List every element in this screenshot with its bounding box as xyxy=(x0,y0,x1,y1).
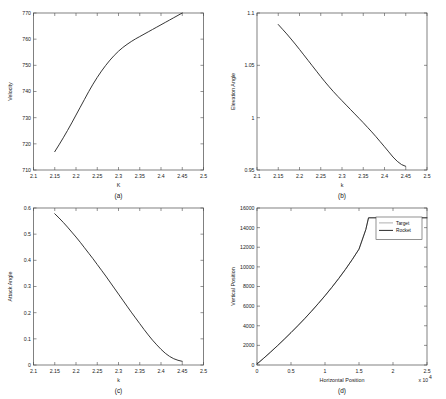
panel-a: 2.12.152.22.252.32.352.42.452.5710720730… xyxy=(7,10,208,200)
x-axis-label: k xyxy=(341,182,344,188)
y-tick-label: 0.6 xyxy=(24,205,31,211)
x-tick-label: 1 xyxy=(324,368,327,374)
plot-frame xyxy=(34,208,204,365)
x-tick-label: 2.3 xyxy=(115,368,122,374)
x-tick-label: 0.5 xyxy=(287,368,294,374)
x-multiplier-base: x 10 xyxy=(419,377,429,383)
x-tick-label: 0 xyxy=(256,368,259,374)
x-tick-label: 2.1 xyxy=(30,368,37,374)
x-tick-label: 2.2 xyxy=(72,368,79,374)
y-tick-label: 0 xyxy=(252,362,255,368)
x-tick-label: 2.5 xyxy=(200,368,207,374)
series-curve-attack angle xyxy=(55,214,183,362)
y-tick-label: 770 xyxy=(22,10,31,16)
x-tick-label: 2 xyxy=(392,368,395,374)
y-axis-label: Attack Angle xyxy=(7,272,13,302)
figure-canvas: 2.12.152.22.252.32.352.42.452.5710720730… xyxy=(0,0,446,399)
x-tick-label: 2.15 xyxy=(273,173,283,179)
y-tick-label: 1.1 xyxy=(247,10,254,16)
y-tick-label: 10000 xyxy=(240,264,255,270)
x-tick-label: 2.25 xyxy=(92,173,102,179)
x-tick-label: 2.2 xyxy=(72,173,79,179)
y-tick-label: 1 xyxy=(252,115,255,121)
y-tick-label: 0.3 xyxy=(24,283,31,289)
y-tick-label: 12000 xyxy=(240,244,255,250)
x-tick-label: 2.45 xyxy=(177,368,187,374)
y-tick-label: 750 xyxy=(22,62,31,68)
x-tick-label: 2.1 xyxy=(253,173,260,179)
y-tick-label: 720 xyxy=(22,141,31,147)
legend: TargetRocket xyxy=(376,217,422,240)
series-curve-elevation angle xyxy=(278,25,406,167)
x-tick-label: 1.5 xyxy=(355,368,362,374)
x-tick-label: 2.35 xyxy=(135,173,145,179)
y-tick-label: 710 xyxy=(22,167,31,173)
y-tick-label: 16000 xyxy=(240,205,255,211)
x-axis-multiplier: x 104 xyxy=(419,374,432,383)
y-tick-label: 0 xyxy=(28,362,31,368)
panel-caption: (b) xyxy=(338,192,346,200)
x-tick-label: 2.35 xyxy=(135,368,145,374)
y-tick-label: 0.5 xyxy=(24,231,31,237)
y-tick-label: 0.2 xyxy=(24,310,31,316)
y-tick-label: 0.1 xyxy=(24,336,31,342)
x-axis-label: K xyxy=(117,182,121,188)
legend-label-rocket: Rocket xyxy=(396,228,412,233)
y-axis-label: Elevation Angle xyxy=(230,73,236,110)
legend-label-target: Target xyxy=(396,221,410,226)
series-curve-velocity xyxy=(55,13,183,152)
panel-b: 2.12.152.22.252.32.352.42.452.50.9511.05… xyxy=(230,10,431,200)
y-axis-label: Velocity xyxy=(7,82,13,101)
x-tick-label: 2.45 xyxy=(401,173,411,179)
y-tick-label: 740 xyxy=(22,88,31,94)
x-multiplier-exponent: 4 xyxy=(429,374,432,380)
y-tick-label: 6000 xyxy=(243,303,255,309)
y-tick-label: 2000 xyxy=(243,342,255,348)
x-tick-label: 2.4 xyxy=(157,173,164,179)
panel-caption: (c) xyxy=(115,387,122,395)
x-tick-label: 2.2 xyxy=(296,173,303,179)
plot-frame xyxy=(257,13,427,170)
y-tick-label: 730 xyxy=(22,115,31,121)
y-tick-label: 14000 xyxy=(240,225,255,231)
y-tick-label: 0.4 xyxy=(24,257,31,263)
x-tick-label: 2.3 xyxy=(115,173,122,179)
y-tick-label: 4000 xyxy=(243,323,255,329)
x-tick-label: 2.4 xyxy=(381,173,388,179)
y-tick-label: 760 xyxy=(22,36,31,42)
x-tick-label: 2.1 xyxy=(30,173,37,179)
x-axis-label: Horizontal Position xyxy=(320,377,365,383)
x-tick-label: 2.25 xyxy=(92,368,102,374)
x-tick-label: 2.15 xyxy=(50,368,60,374)
x-tick-label: 2.35 xyxy=(358,173,368,179)
panel-c: 2.12.152.22.252.32.352.42.452.500.10.20.… xyxy=(7,205,208,395)
x-tick-label: 2.5 xyxy=(423,368,430,374)
panel-d: 00.511.522.50200040006000800010000120001… xyxy=(230,205,432,395)
panel-caption: (a) xyxy=(115,192,123,200)
x-tick-label: 2.5 xyxy=(200,173,207,179)
panel-caption: (d) xyxy=(338,387,346,395)
y-axis-label: Vertical Position xyxy=(230,267,236,305)
y-tick-label: 8000 xyxy=(243,283,255,289)
plot-frame xyxy=(34,13,204,170)
y-tick-label: 1.05 xyxy=(244,62,254,68)
x-axis-label: k xyxy=(117,377,120,383)
y-tick-label: 0.95 xyxy=(244,167,254,173)
x-tick-label: 2.25 xyxy=(316,173,326,179)
x-tick-label: 2.5 xyxy=(423,173,430,179)
x-tick-label: 2.4 xyxy=(157,368,164,374)
x-tick-label: 2.15 xyxy=(50,173,60,179)
x-tick-label: 2.45 xyxy=(177,173,187,179)
x-tick-label: 2.3 xyxy=(338,173,345,179)
